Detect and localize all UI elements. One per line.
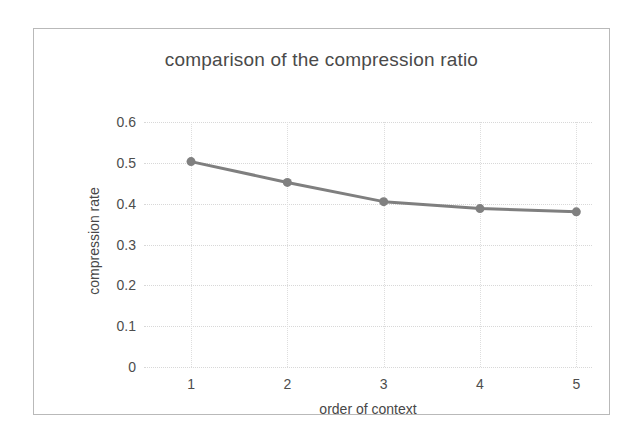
data-point-marker	[283, 178, 292, 187]
data-point-marker	[476, 204, 485, 213]
y-axis-title: compression rate	[86, 141, 102, 341]
data-point-marker	[379, 197, 388, 206]
x-tick-label: 1	[171, 376, 211, 392]
gridline-horizontal	[144, 367, 592, 368]
data-point-marker	[572, 207, 581, 216]
line-series	[144, 122, 592, 367]
chart-title: comparison of the compression ratio	[34, 49, 609, 71]
x-tick-label: 4	[460, 376, 500, 392]
x-axis-title: order of context	[144, 401, 592, 417]
x-tick-label: 5	[556, 376, 596, 392]
x-tick-label: 2	[267, 376, 307, 392]
x-axis-tick-labels: 1 2 3 4 5	[144, 376, 592, 396]
data-point-marker	[187, 157, 196, 166]
y-tick-label: 0	[90, 359, 136, 375]
y-tick-label: 0.6	[90, 114, 136, 130]
figure-frame: comparison of the compression ratio 0.6 …	[33, 28, 610, 415]
plot-area	[144, 122, 592, 367]
x-tick-label: 3	[364, 376, 404, 392]
